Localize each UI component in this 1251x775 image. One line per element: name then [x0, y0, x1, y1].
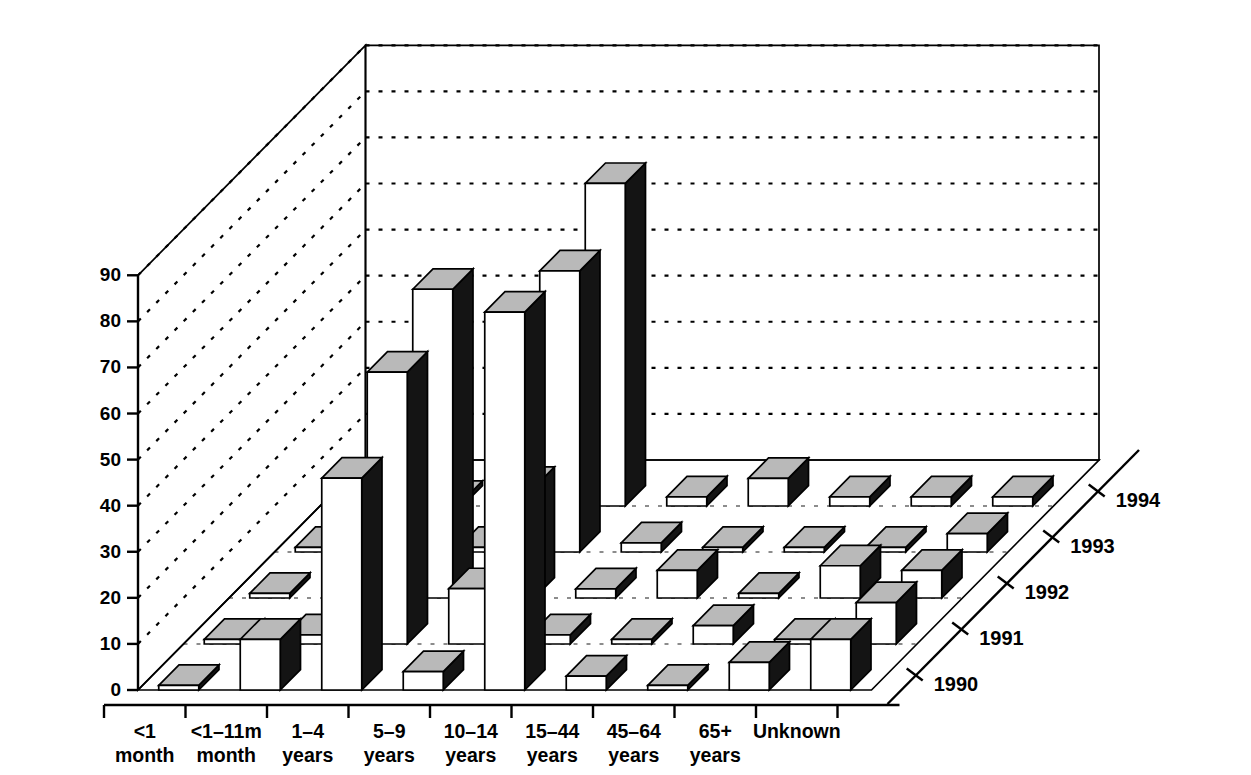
bar-5–9-years-1990: [403, 651, 463, 690]
bar-side-face: [407, 352, 427, 644]
y-tick-label-20: 20: [100, 587, 121, 608]
bar-front-face: [566, 676, 606, 690]
bar-top-face: [739, 573, 799, 593]
bar-15–44-years-1992: [657, 550, 717, 598]
bar-front-face: [784, 547, 824, 552]
bar-15–44-years-1990: [566, 656, 626, 690]
bar-front-face: [729, 662, 769, 690]
bar-front-face: [240, 639, 280, 690]
bar-side-face: [525, 292, 545, 690]
bar-side-face: [625, 163, 645, 506]
bar-front-face: [911, 497, 951, 506]
bar-15–44-years-1991: [612, 619, 672, 644]
x-category-label-6-line1: 45–64: [607, 720, 661, 742]
bar-front-face: [576, 589, 616, 598]
x-category-label-2-line2: years: [282, 744, 333, 766]
y-tick-label-40: 40: [100, 495, 121, 516]
y-tick-label-0: 0: [110, 679, 121, 700]
bar-front-face: [748, 478, 788, 506]
y-tick-labels: 0102030405060708090: [100, 264, 121, 700]
gridline-left-80: [138, 91, 366, 321]
x-category-label-7-line2: years: [690, 744, 741, 766]
x-category-label-4-line1: 10–14: [444, 720, 498, 742]
bar-front-face: [811, 639, 851, 690]
bar-top-face: [648, 665, 708, 685]
bar-front-face: [322, 478, 362, 690]
x-category-label-1-line1: <1–11m: [191, 720, 262, 742]
y-tick-label-90: 90: [100, 264, 121, 285]
bar-65+-years-1994: [911, 476, 971, 506]
bar-10–14-years-1992: [576, 568, 636, 598]
x-category-label-5-line1: 15–44: [525, 720, 579, 742]
x-category-label-4-line2: years: [445, 744, 496, 766]
x-axis: [104, 705, 900, 718]
bar-Unknown-1993: [947, 513, 1007, 552]
bar-45–64-years-1993: [784, 527, 844, 552]
y-tick-label-10: 10: [100, 633, 121, 654]
bar-front-face: [449, 589, 489, 644]
bar-45–64-years-1991: [693, 605, 753, 644]
bar-top-face: [784, 527, 844, 547]
bar-<1-month-1990: [159, 665, 219, 690]
bar-front-face: [250, 593, 290, 598]
x-category-labels: <1month<1–11mmonth1–4years5–9years10–14y…: [115, 720, 841, 766]
bar-front-face: [830, 497, 870, 506]
x-category-label-7-line1: 65+: [699, 720, 732, 742]
bar-front-face: [612, 639, 652, 644]
bar-65+-years-1990: [729, 642, 789, 690]
bar-10–14-years-1994: [667, 476, 727, 506]
gridline-left-60: [138, 184, 366, 414]
gridline-left-70: [138, 137, 366, 367]
bar-45–64-years-1994: [830, 476, 890, 506]
x-category-label-0-line1: <1: [134, 720, 156, 742]
x-category-label-5-line2: years: [527, 744, 578, 766]
bar-chart-3d: 0102030405060708090 <1month<1–11mmonth1–…: [0, 0, 1251, 775]
bar-front-face: [621, 543, 661, 552]
bar-front-face: [693, 626, 733, 644]
bar-side-face: [453, 269, 473, 598]
y-tick-label-50: 50: [100, 449, 121, 470]
y-tick-label-80: 80: [100, 310, 121, 331]
y-tick-label-70: 70: [100, 356, 121, 377]
year-label-1994: 1994: [1116, 489, 1161, 511]
bar-Unknown-1990: [811, 619, 871, 690]
y-axis: [127, 275, 138, 690]
gridline-left-50: [138, 230, 366, 460]
bar-front-face: [820, 566, 860, 598]
x-category-label-0-line2: month: [115, 744, 175, 766]
chart-container: 0102030405060708090 <1month<1–11mmonth1–…: [0, 0, 1251, 775]
bar-1–4-years-1990: [322, 458, 382, 690]
bar-front-face: [648, 685, 688, 690]
bar-45–64-years-1992: [739, 573, 799, 598]
year-label-1992: 1992: [1025, 581, 1070, 603]
x-category-label-1-line2: month: [196, 744, 256, 766]
year-label-1993: 1993: [1070, 535, 1115, 557]
bar-<1-month-1992: [250, 573, 310, 598]
x-category-label-2-line1: 1–4: [291, 720, 324, 742]
bar-15–44-years-1994: [748, 458, 808, 506]
bar-front-face: [657, 570, 697, 598]
bar-side-face: [580, 250, 600, 552]
bar-front-face: [159, 685, 199, 690]
bar-<1–11m-month-1990: [240, 619, 300, 690]
bar-side-face: [362, 458, 382, 690]
year-label-1991: 1991: [979, 627, 1024, 649]
bar-front-face: [403, 672, 443, 690]
bar-top-face: [612, 619, 672, 639]
bar-front-face: [739, 593, 779, 598]
bar-10–14-years-1990: [485, 292, 545, 690]
bar-front-face: [667, 497, 707, 506]
bar-top-face: [866, 527, 926, 547]
x-category-label-3-line2: years: [364, 744, 415, 766]
bar-top-face: [250, 573, 310, 593]
bar-top-face: [159, 665, 219, 685]
bars-layer: [159, 163, 1053, 690]
bar-top-face: [703, 527, 763, 547]
bar-Unknown-1994: [993, 476, 1053, 506]
x-category-label-6-line2: years: [608, 744, 659, 766]
bar-front-face: [204, 639, 244, 644]
year-label-1990: 1990: [934, 673, 979, 695]
bar-45–64-years-1990: [648, 665, 708, 690]
y-tick-label-60: 60: [100, 403, 121, 424]
bar-10–14-years-1993: [621, 522, 681, 552]
